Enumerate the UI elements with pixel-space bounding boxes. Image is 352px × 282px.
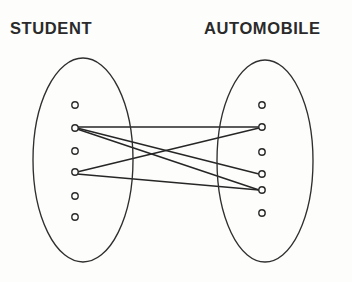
left-member-dot-s6 [72, 214, 78, 220]
right-member-dot-a6 [259, 210, 265, 216]
right-member-dot-a1 [259, 102, 265, 108]
right-member-dot-a3 [259, 149, 265, 155]
right-member-dot-a4 [259, 171, 265, 177]
right-member-dot-a2 [259, 124, 265, 130]
set-mapping-graphic [0, 0, 352, 282]
edges-group [77, 127, 259, 190]
ellipses-group [33, 58, 313, 262]
edge-s4-to-a5 [77, 174, 259, 190]
left-member-dot-s4 [72, 169, 78, 175]
left-member-dot-s5 [72, 193, 78, 199]
member-dots-group [72, 102, 265, 220]
edge-s2-to-a5 [77, 129, 259, 190]
left-member-dot-s2 [72, 125, 78, 131]
right-set-ellipse [217, 60, 313, 262]
left-set-ellipse [33, 58, 133, 262]
diagram-canvas: STUDENT AUTOMOBILE [0, 0, 352, 282]
left-member-dot-s1 [72, 102, 78, 108]
left-member-dot-s3 [72, 148, 78, 154]
right-member-dot-a5 [259, 187, 265, 193]
